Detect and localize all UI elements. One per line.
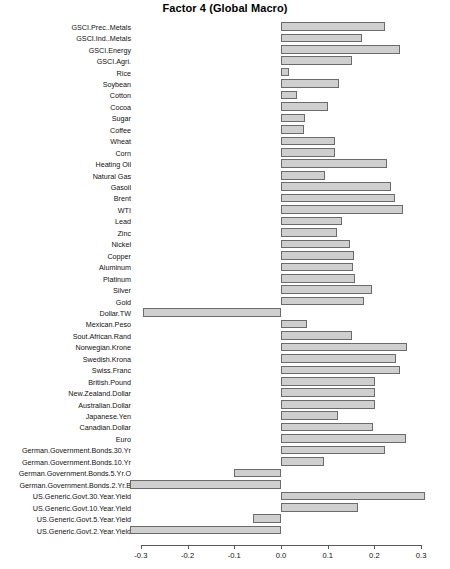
bar-row: German.Government.Bonds.2.Yr.B [0, 479, 450, 490]
category-label: Gold [116, 297, 131, 306]
bar-row: German.Government.Bonds.5.Yr.O [0, 468, 450, 479]
bar-row: US.Generic.Govt.30.Year.Yield [0, 490, 450, 501]
category-label: Canadian.Dollar [79, 423, 131, 432]
category-label: German.Government.Bonds.30.Yr [22, 446, 131, 455]
x-axis-tick-label: 0.1 [322, 551, 333, 560]
category-label: Copper [107, 251, 131, 260]
x-axis-tick-label: -0.2 [181, 551, 194, 560]
category-label: GSCI.Ind..Metals [76, 34, 131, 43]
category-label: Zinc [117, 228, 131, 237]
category-label: GSCI.Energy [89, 45, 131, 54]
x-axis-tick [281, 545, 282, 549]
category-label: Australian.Dollar [78, 400, 131, 409]
category-label: Corn [115, 148, 131, 157]
bar [281, 240, 350, 249]
bar [281, 423, 373, 432]
bar [281, 446, 385, 455]
bar [281, 114, 305, 123]
category-label: US.Generic.Govt.10.Year.Yield [33, 503, 131, 512]
bar-row: Canadian.Dollar [0, 422, 450, 433]
category-label: German.Government.Bonds.5.Yr.O [19, 469, 131, 478]
category-label: Norwegian.Krone [75, 343, 131, 352]
category-label: Heating Oil [95, 160, 131, 169]
bar [281, 194, 395, 203]
x-axis-tick [234, 545, 235, 549]
category-label: Natural Gas [93, 171, 131, 180]
bar-row: Wheat [0, 136, 450, 147]
bar-row: GSCI.Agri. [0, 55, 450, 66]
bar-row: Coffee [0, 124, 450, 135]
x-axis-tick [141, 545, 142, 549]
category-label: Coffee [110, 125, 131, 134]
bar [130, 526, 281, 535]
bar-row: US.Generic.Govt.5.Year.Yield [0, 513, 450, 524]
bar-row: British.Pound [0, 376, 450, 387]
category-label: US.Generic.Govt.5.Year.Yield [37, 515, 131, 524]
bar [281, 22, 385, 31]
bar [253, 514, 281, 523]
category-label: German.Government.Bonds.10.Yr [22, 457, 131, 466]
x-axis-tick [188, 545, 189, 549]
bar-row: German.Government.Bonds.30.Yr [0, 445, 450, 456]
bar-row: US.Generic.Govt.2.Year.Yield [0, 525, 450, 536]
bar [143, 308, 281, 317]
bar [281, 354, 396, 363]
bar [281, 68, 289, 77]
bar-row: Zinc [0, 227, 450, 238]
bar [234, 469, 281, 478]
bar [281, 343, 407, 352]
x-axis-tick [328, 545, 329, 549]
bar [281, 171, 325, 180]
category-label: Wheat [110, 137, 131, 146]
category-label: Rice [117, 68, 131, 77]
factor-loadings-bar-chart: Factor 4 (Global Macro) GSCI.Prec..Metal… [0, 0, 450, 569]
bar [281, 45, 400, 54]
category-label: Nickel [111, 240, 131, 249]
bar [281, 320, 307, 329]
category-label: Sout.African.Rand [73, 331, 131, 340]
category-label: British.Pound [88, 377, 131, 386]
bar-row: Platinum [0, 273, 450, 284]
category-label: Dollar.TW [99, 308, 131, 317]
category-label: Lead [115, 217, 131, 226]
x-axis-tick-label: 0.0 [276, 551, 287, 560]
bar [281, 102, 328, 111]
bar [281, 56, 352, 65]
category-label: GSCI.Agri. [97, 57, 131, 66]
bar [281, 34, 362, 43]
bar [281, 125, 304, 134]
category-label: New.Zealand.Dollar [68, 389, 131, 398]
category-label: US.Generic.Govt.2.Year.Yield [37, 526, 131, 535]
x-axis-tick [374, 545, 375, 549]
bar-row: US.Generic.Govt.10.Year.Yield [0, 502, 450, 513]
bar [281, 377, 375, 386]
bar [281, 79, 339, 88]
bar-row: GSCI.Ind..Metals [0, 32, 450, 43]
bar-row: Gasoil [0, 181, 450, 192]
bar-row: Rice [0, 67, 450, 78]
category-label: Japanese.Yen [86, 412, 131, 421]
bar-row: Norwegian.Krone [0, 342, 450, 353]
bar [281, 182, 391, 191]
category-label: Platinum [103, 274, 131, 283]
category-label: Cotton [110, 91, 131, 100]
bar [281, 205, 403, 214]
bar [281, 492, 425, 501]
bar-row: Heating Oil [0, 158, 450, 169]
bar-row: Nickel [0, 239, 450, 250]
category-label: German.Government.Bonds.2.Yr.B [20, 480, 131, 489]
bar [281, 159, 387, 168]
bar-row: Japanese.Yen [0, 410, 450, 421]
bar-row: German.Government.Bonds.10.Yr [0, 456, 450, 467]
bar [281, 263, 353, 272]
bar [281, 91, 297, 100]
category-label: Swedish.Krona [83, 354, 131, 363]
bar-row: Sugar [0, 113, 450, 124]
bar-row: Silver [0, 284, 450, 295]
category-label: Sugar [112, 114, 131, 123]
bar-row: Euro [0, 433, 450, 444]
bar [281, 137, 335, 146]
bar [281, 297, 364, 306]
bar [281, 503, 358, 512]
bar [281, 457, 324, 466]
